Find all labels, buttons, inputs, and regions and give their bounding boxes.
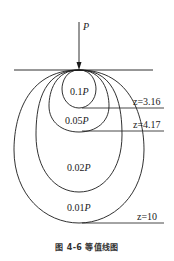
contour-label-0.01P: 0.01P [67,202,91,213]
contour-label-0.02P: 0.02P [67,162,91,173]
stress-isoline-diagram: P 0.1P 0.05P 0.02P 0.01P z=3.16 z=4.17 z… [0,0,174,261]
load-label: P [82,21,89,32]
figure-caption: 图 4-6 等值线图 [0,241,174,252]
depth-label-3.16: z=3.16 [133,96,161,107]
depth-label-10: z=10 [137,211,157,222]
contour-label-0.05P: 0.05P [65,115,89,126]
depth-label-4.17: z=4.17 [133,119,161,130]
load-arrow [77,22,82,70]
contour-label-0.1P: 0.1P [70,86,89,97]
